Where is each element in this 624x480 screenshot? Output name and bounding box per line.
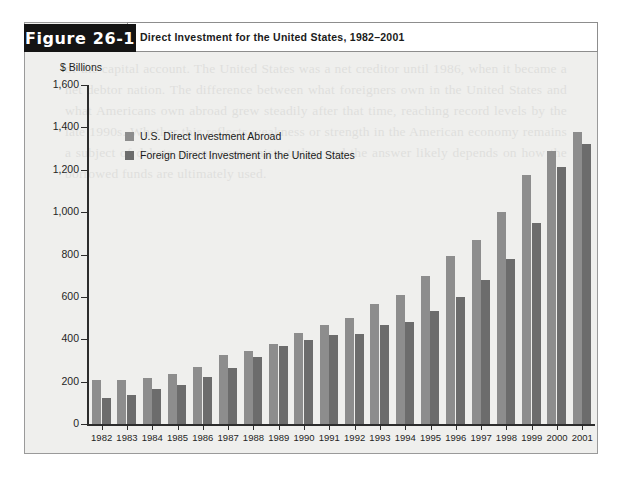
x-axis-tick xyxy=(456,426,457,430)
chart-panel: of the capital account. The United State… xyxy=(25,52,597,453)
x-axis-tick xyxy=(127,426,128,430)
bar-series-b xyxy=(532,223,541,424)
x-axis-tick xyxy=(481,426,482,430)
y-axis-tick-label: 200 xyxy=(35,375,79,387)
bar-group xyxy=(393,85,418,424)
bar-series-b xyxy=(253,357,262,424)
x-axis-tick xyxy=(557,426,558,430)
bar-series-a xyxy=(92,380,101,424)
bar-series-a xyxy=(446,256,455,424)
bar-series-a xyxy=(547,151,556,424)
bar-series-a xyxy=(522,175,531,424)
bar-series-b xyxy=(127,395,136,424)
bar-series-b xyxy=(177,385,186,424)
x-axis-tick xyxy=(380,426,381,430)
y-axis-tick xyxy=(81,85,88,86)
legend-item-series-a: U.S. Direct Investment Abroad xyxy=(125,130,355,142)
bar-group xyxy=(570,85,595,424)
legend-label-series-a: U.S. Direct Investment Abroad xyxy=(140,130,281,142)
y-axis-tick xyxy=(81,212,88,213)
bar-group xyxy=(418,85,443,424)
x-axis-tick-label: 2001 xyxy=(567,432,597,443)
bar-series-a xyxy=(396,295,405,424)
bar-series-b xyxy=(582,144,591,424)
bar-group xyxy=(89,85,114,424)
y-axis-tick xyxy=(81,424,88,425)
bar-series-a xyxy=(269,344,278,425)
y-axis-tick-label: 1,200 xyxy=(35,163,79,175)
bar-series-b xyxy=(405,322,414,424)
bar-series-a xyxy=(497,212,506,424)
y-axis-tick xyxy=(81,382,88,383)
legend-swatch-icon-series-a xyxy=(125,132,134,141)
y-axis-tick xyxy=(81,339,88,340)
bar-group xyxy=(494,85,519,424)
x-axis-tick xyxy=(304,426,305,430)
figure-title: Direct Investment for the United States,… xyxy=(128,31,405,43)
figure-number-tab: Figure 26-1 xyxy=(24,24,136,52)
bar-series-b xyxy=(456,297,465,424)
bar-series-a xyxy=(573,132,582,424)
x-axis-tick xyxy=(279,426,280,430)
bar-group xyxy=(367,85,392,424)
bar-series-b xyxy=(228,368,237,424)
bar-series-a xyxy=(168,374,177,424)
x-axis-tick xyxy=(253,426,254,430)
figure-number-label: Figure 26-1 xyxy=(25,29,135,48)
bar-series-b xyxy=(481,280,490,424)
y-axis-tick-label: 400 xyxy=(35,332,79,344)
x-axis-tick xyxy=(329,426,330,430)
x-axis-tick xyxy=(203,426,204,430)
bar-series-a xyxy=(472,240,481,424)
figure-root: Direct Investment for the United States,… xyxy=(0,0,624,480)
x-axis-tick xyxy=(355,426,356,430)
bar-group xyxy=(443,85,468,424)
bar-series-a xyxy=(244,351,253,424)
bar-series-b xyxy=(380,325,389,424)
y-axis-tick-label: 0 xyxy=(35,417,79,429)
bar-series-b xyxy=(102,398,111,424)
bar-group xyxy=(469,85,494,424)
figure-title-bar: Direct Investment for the United States,… xyxy=(127,22,598,52)
bar-series-a xyxy=(219,355,228,424)
y-axis-tick-label: 1,600 xyxy=(35,78,79,90)
bar-series-a xyxy=(143,378,152,424)
x-axis-tick xyxy=(532,426,533,430)
bar-series-b xyxy=(355,334,364,424)
bar-series-a xyxy=(117,380,126,424)
bar-group xyxy=(519,85,544,424)
chart-plot-area: 02004006008001,0001,2001,4001,600 198219… xyxy=(25,52,597,453)
bar-series-a xyxy=(421,276,430,424)
y-axis-tick-label: 800 xyxy=(35,248,79,260)
x-axis-line xyxy=(87,424,595,426)
bar-series-b xyxy=(430,311,439,424)
bar-series-b xyxy=(203,377,212,424)
x-axis-tick xyxy=(178,426,179,430)
bar-series-b xyxy=(304,340,313,424)
bar-series-a xyxy=(294,333,303,424)
y-axis-tick xyxy=(81,255,88,256)
x-axis-tick xyxy=(582,426,583,430)
bar-series-b xyxy=(506,259,515,424)
y-axis-tick xyxy=(81,127,88,128)
bar-series-a xyxy=(370,304,379,424)
bar-series-a xyxy=(193,367,202,424)
legend-label-series-b: Foreign Direct Investment in the United … xyxy=(140,149,355,161)
bar-series-b xyxy=(329,335,338,424)
y-axis-tick-label: 600 xyxy=(35,290,79,302)
x-axis-tick xyxy=(152,426,153,430)
x-axis-tick xyxy=(102,426,103,430)
y-axis-tick xyxy=(81,170,88,171)
x-axis-tick xyxy=(431,426,432,430)
legend-item-series-b: Foreign Direct Investment in the United … xyxy=(125,149,355,161)
bar-series-b xyxy=(152,389,161,424)
bar-series-a xyxy=(320,325,329,424)
y-axis-tick-label: 1,000 xyxy=(35,205,79,217)
chart-legend: U.S. Direct Investment Abroad Foreign Di… xyxy=(125,130,355,168)
x-axis-tick xyxy=(405,426,406,430)
x-axis-tick xyxy=(506,426,507,430)
bar-series-a xyxy=(345,318,354,424)
y-axis-tick-label: 1,400 xyxy=(35,120,79,132)
y-axis-tick xyxy=(81,297,88,298)
bar-series-b xyxy=(557,167,566,424)
